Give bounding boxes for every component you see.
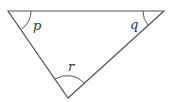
triangle: [8, 11, 164, 98]
angle-label-q: q: [130, 17, 138, 32]
angle-label-p: p: [33, 18, 42, 33]
angle-arc-p: [22, 11, 31, 29]
triangle-diagram: p q r: [0, 0, 171, 102]
angle-label-r: r: [68, 59, 75, 74]
angle-arc-q: [143, 11, 148, 25]
angle-arc-r: [55, 76, 84, 83]
